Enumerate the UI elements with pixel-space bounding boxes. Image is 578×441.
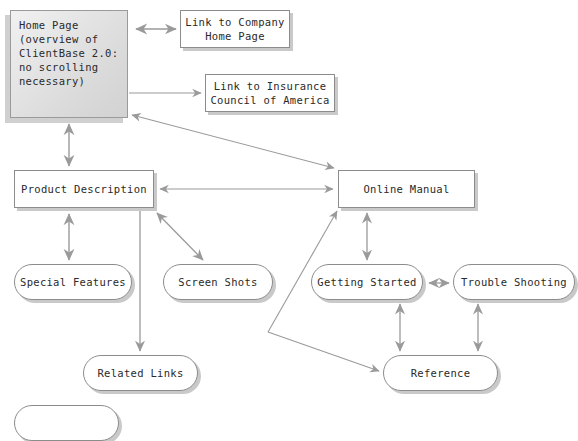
node-screen-shots[interactable]: Screen Shots bbox=[163, 264, 273, 300]
node-getting-started[interactable]: Getting Started bbox=[311, 264, 423, 300]
node-related-links[interactable]: Related Links bbox=[83, 355, 198, 391]
node-screen-shots-label: Screen Shots bbox=[178, 275, 257, 289]
edge-home-to-online-manual bbox=[132, 115, 334, 168]
edge-product-description-to-screen-shots bbox=[157, 213, 203, 260]
edge-online-manual-to-reference-lower bbox=[268, 332, 379, 371]
node-home-page-label: Home Page (overview of ClientBase 2.0: n… bbox=[19, 18, 118, 88]
node-related-links-label: Related Links bbox=[97, 366, 183, 380]
node-reference[interactable]: Reference bbox=[383, 355, 498, 391]
node-link-company-home[interactable]: Link to Company Home Page bbox=[180, 10, 290, 48]
node-special-features-label: Special Features bbox=[20, 275, 126, 289]
node-link-insurance-council-label: Link to Insurance Council of America bbox=[210, 79, 329, 107]
node-link-insurance-council[interactable]: Link to Insurance Council of America bbox=[205, 74, 335, 112]
node-bottom-partial[interactable] bbox=[14, 405, 119, 441]
node-getting-started-label: Getting Started bbox=[317, 275, 416, 289]
node-online-manual-label: Online Manual bbox=[363, 182, 449, 196]
node-product-description-label: Product Description bbox=[21, 182, 147, 196]
node-reference-label: Reference bbox=[411, 366, 471, 380]
node-link-company-home-label: Link to Company Home Page bbox=[185, 15, 284, 43]
node-trouble-shooting[interactable]: Trouble Shooting bbox=[453, 264, 575, 300]
node-online-manual[interactable]: Online Manual bbox=[338, 170, 475, 208]
node-product-description[interactable]: Product Description bbox=[14, 170, 154, 208]
node-home-page[interactable]: Home Page (overview of ClientBase 2.0: n… bbox=[10, 10, 128, 118]
node-trouble-shooting-label: Trouble Shooting bbox=[461, 275, 567, 289]
node-special-features[interactable]: Special Features bbox=[14, 264, 132, 300]
